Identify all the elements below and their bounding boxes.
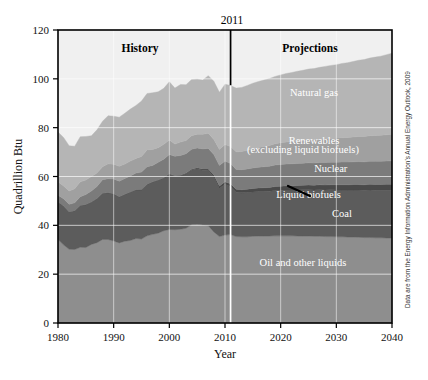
x-axis-title: Year: [214, 347, 236, 361]
history-period-label: History: [121, 42, 158, 55]
y-tick-label-20: 20: [38, 268, 50, 280]
series-label-5: Coal: [332, 208, 352, 219]
series-label-3: Nuclear: [314, 163, 348, 174]
divider-year-label: 2011: [221, 14, 244, 26]
y-tick-label-60: 60: [38, 171, 50, 183]
x-tick-label-2020: 2020: [270, 331, 293, 343]
x-tick-label-2000: 2000: [158, 331, 181, 343]
series-label-6: Oil and other liquids: [260, 257, 347, 268]
source-note: Data are from the Energy Information Adm…: [404, 71, 412, 308]
x-tick-label-2010: 2010: [214, 331, 237, 343]
x-tick-label-2040: 2040: [381, 331, 404, 343]
x-tick-label-2030: 2030: [325, 331, 348, 343]
y-tick-label-120: 120: [33, 24, 50, 36]
series-label-0: Natural gas: [290, 87, 338, 98]
y-tick-label-40: 40: [38, 219, 50, 231]
energy-consumption-chart-figure: 020406080100120 198019902000201020202030…: [0, 0, 428, 380]
series-label-2: (excluding liquid biofuels): [247, 144, 359, 156]
y-tick-label-0: 0: [44, 317, 50, 329]
y-tick-label-100: 100: [33, 73, 50, 85]
projections-period-label: Projections: [282, 42, 338, 55]
y-tick-label-80: 80: [38, 122, 50, 134]
x-tick-label-1980: 1980: [47, 331, 70, 343]
y-axis-title: Quadrillion Btu: [11, 139, 25, 215]
chart-canvas: 020406080100120 198019902000201020202030…: [0, 0, 428, 380]
x-tick-label-1990: 1990: [103, 331, 126, 343]
